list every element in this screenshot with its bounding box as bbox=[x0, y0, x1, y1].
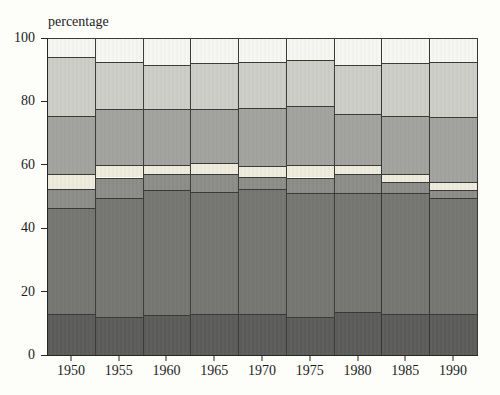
bar-1975-segment-medium-gray bbox=[287, 106, 334, 165]
bar-1990-segment-near-white-top bbox=[430, 38, 477, 62]
y-tick-label-100: 100 bbox=[14, 30, 35, 46]
bar-1960-segment-medium-dark-gray bbox=[144, 190, 191, 315]
x-tick-1980 bbox=[357, 356, 358, 361]
bar-1950-segment-dark-gray-bottom bbox=[48, 314, 95, 355]
bar-1985 bbox=[382, 38, 430, 355]
bar-1985-segment-medium-gray bbox=[382, 116, 429, 175]
bar-1970-segment-light-gray bbox=[239, 62, 286, 108]
bar-1990-segment-dark-gray-bottom bbox=[430, 314, 477, 355]
x-axis-ticks bbox=[47, 356, 477, 361]
bar-1990-segment-light-gray bbox=[430, 62, 477, 117]
bar-1990-segment-medium-dark-gray bbox=[430, 198, 477, 314]
bar-1950-segment-light-gray bbox=[48, 57, 95, 116]
x-tick-1950 bbox=[70, 356, 71, 361]
bar-1955-segment-gray-band bbox=[96, 178, 143, 199]
bar-1985-segment-gray-band bbox=[382, 182, 429, 193]
bar-1965-segment-dark-gray-bottom bbox=[191, 314, 238, 355]
bar-1955 bbox=[96, 38, 144, 355]
bar-1975-segment-light-gray bbox=[287, 60, 334, 106]
x-tick-label-1955: 1955 bbox=[105, 363, 133, 379]
y-tick-label-20: 20 bbox=[21, 284, 35, 300]
bar-1960-segment-light-gray bbox=[144, 65, 191, 109]
bar-1975-segment-near-white-top bbox=[287, 38, 334, 60]
x-tick-label-1990: 1990 bbox=[439, 363, 467, 379]
x-tick-label-1970: 1970 bbox=[248, 363, 276, 379]
x-tick-1955 bbox=[118, 356, 119, 361]
x-tick-1960 bbox=[166, 356, 167, 361]
bar-1965-segment-gray-band bbox=[191, 174, 238, 191]
x-tick-1985 bbox=[405, 356, 406, 361]
bar-1975-segment-medium-dark-gray bbox=[287, 193, 334, 317]
bar-1970-segment-cream-band bbox=[239, 166, 286, 177]
bar-1965 bbox=[191, 38, 239, 355]
x-tick-label-1980: 1980 bbox=[344, 363, 372, 379]
x-tick-label-1985: 1985 bbox=[391, 363, 419, 379]
bar-1960-segment-gray-band bbox=[144, 174, 191, 190]
x-axis-labels: 195019551960196519701975198019851990 bbox=[47, 363, 477, 383]
plot-area bbox=[47, 38, 478, 356]
bar-1965-segment-near-white-top bbox=[191, 38, 238, 63]
bar-1990 bbox=[430, 38, 478, 355]
y-tick-label-40: 40 bbox=[21, 220, 35, 236]
x-tick-1975 bbox=[309, 356, 310, 361]
bar-1950-segment-gray-band bbox=[48, 189, 95, 208]
x-tick-1990 bbox=[453, 356, 454, 361]
y-axis-title: percentage bbox=[48, 14, 109, 30]
x-tick-label-1950: 1950 bbox=[57, 363, 85, 379]
x-tick-label-1965: 1965 bbox=[200, 363, 228, 379]
x-tick-label-1960: 1960 bbox=[152, 363, 180, 379]
bar-1985-segment-light-gray bbox=[382, 63, 429, 115]
bar-1950 bbox=[48, 38, 96, 355]
bar-1965-segment-light-gray bbox=[191, 63, 238, 109]
bar-1960-segment-dark-gray-bottom bbox=[144, 315, 191, 355]
bar-1955-segment-light-gray bbox=[96, 62, 143, 110]
bar-1975-segment-cream-band bbox=[287, 165, 334, 178]
y-tick-label-60: 60 bbox=[21, 157, 35, 173]
bar-1980-segment-cream-band bbox=[335, 165, 382, 175]
bar-1980-segment-medium-dark-gray bbox=[335, 193, 382, 312]
bar-1990-segment-medium-gray bbox=[430, 117, 477, 182]
bar-1965-segment-medium-dark-gray bbox=[191, 192, 238, 314]
bar-1970-segment-medium-gray bbox=[239, 108, 286, 167]
bar-1960-segment-near-white-top bbox=[144, 38, 191, 65]
x-tick-1970 bbox=[262, 356, 263, 361]
y-axis-labels: 020406080100 bbox=[0, 38, 38, 355]
bar-1980 bbox=[335, 38, 383, 355]
y-tick-label-80: 80 bbox=[21, 93, 35, 109]
bar-1960 bbox=[144, 38, 192, 355]
bar-1985-segment-dark-gray-bottom bbox=[382, 314, 429, 355]
bar-1970 bbox=[239, 38, 287, 355]
bar-1975-segment-gray-band bbox=[287, 178, 334, 194]
bar-1980-segment-light-gray bbox=[335, 65, 382, 114]
bar-1965-segment-cream-band bbox=[191, 163, 238, 174]
y-tick-label-0: 0 bbox=[28, 347, 35, 363]
bar-1975 bbox=[287, 38, 335, 355]
bar-1985-segment-near-white-top bbox=[382, 38, 429, 63]
bar-1950-segment-medium-gray bbox=[48, 116, 95, 175]
bar-1950-segment-medium-dark-gray bbox=[48, 208, 95, 314]
bar-1960-segment-medium-gray bbox=[144, 109, 191, 164]
bar-1980-segment-dark-gray-bottom bbox=[335, 312, 382, 355]
bar-1970-segment-medium-dark-gray bbox=[239, 189, 286, 314]
bar-1975-segment-dark-gray-bottom bbox=[287, 317, 334, 355]
bar-1990-segment-gray-band bbox=[430, 190, 477, 198]
bar-1955-segment-medium-dark-gray bbox=[96, 198, 143, 317]
x-tick-label-1975: 1975 bbox=[296, 363, 324, 379]
bar-1985-segment-medium-dark-gray bbox=[382, 193, 429, 313]
bar-1970-segment-gray-band bbox=[239, 177, 286, 188]
bar-1955-segment-cream-band bbox=[96, 165, 143, 178]
stacked-bar-chart-figure: percentage 020406080100 1950195519601965… bbox=[0, 0, 500, 395]
bar-1980-segment-near-white-top bbox=[335, 38, 382, 65]
bar-1965-segment-medium-gray bbox=[191, 109, 238, 163]
bar-1955-segment-medium-gray bbox=[96, 109, 143, 164]
bar-1970-segment-near-white-top bbox=[239, 38, 286, 62]
bar-1955-segment-dark-gray-bottom bbox=[96, 317, 143, 355]
bar-1960-segment-cream-band bbox=[144, 165, 191, 175]
bar-1950-segment-cream-band bbox=[48, 174, 95, 188]
bar-1990-segment-cream-band bbox=[430, 182, 477, 190]
bar-1950-segment-near-white-top bbox=[48, 38, 95, 57]
bar-1980-segment-medium-gray bbox=[335, 114, 382, 165]
bar-1955-segment-near-white-top bbox=[96, 38, 143, 62]
bar-1980-segment-gray-band bbox=[335, 174, 382, 193]
bar-1985-segment-cream-band bbox=[382, 174, 429, 182]
